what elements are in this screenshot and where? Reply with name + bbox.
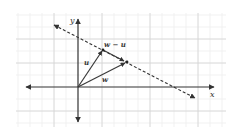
label-w: w	[102, 75, 109, 84]
vector-diagram: x y u w w − u	[0, 0, 240, 132]
point-u-tip	[102, 49, 105, 52]
vector-w-minus-u	[103, 50, 124, 61]
x-axis-label: x	[210, 90, 215, 99]
point-w-tip	[126, 61, 129, 64]
y-axis-label: y	[69, 16, 75, 25]
label-u: u	[84, 58, 89, 67]
label-w-minus-u: w − u	[104, 40, 126, 49]
grid	[16, 13, 226, 127]
